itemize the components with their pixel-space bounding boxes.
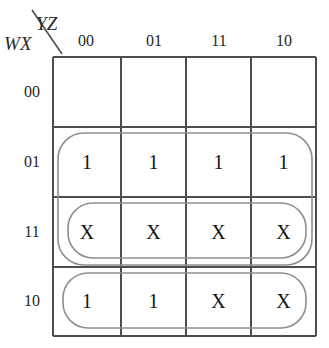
cell-r3c3: X	[251, 267, 316, 336]
cell-r3c1: 1	[121, 267, 186, 336]
cell-r1c1: 1	[121, 127, 186, 197]
cell-r0c2	[186, 57, 251, 127]
cell-r2c0: X	[53, 197, 121, 267]
cell-r0c0	[53, 57, 121, 127]
cell-r1c3: 1	[251, 127, 316, 197]
cell-r1c2: 1	[186, 127, 251, 197]
karnaugh-map: YZ WX 00 01 11 10 00 01 11 10 1 1 1 1	[0, 0, 329, 348]
cell-r2c3: X	[251, 197, 316, 267]
cell-r3c0: 1	[53, 267, 121, 336]
cell-r0c1	[121, 57, 186, 127]
cell-r2c2: X	[186, 197, 251, 267]
cell-r1c0: 1	[53, 127, 121, 197]
cell-r3c2: X	[186, 267, 251, 336]
cell-r0c3	[251, 57, 316, 127]
cell-r2c1: X	[121, 197, 186, 267]
